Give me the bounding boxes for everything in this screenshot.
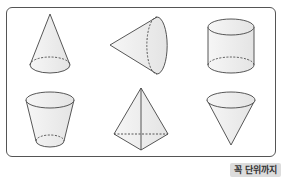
cylinder-icon	[208, 19, 254, 73]
cone-upright-icon	[30, 14, 70, 73]
cone-sideways-icon	[110, 17, 167, 74]
solid-figures	[0, 0, 285, 177]
truncated-cone-icon	[26, 92, 74, 147]
units-reminder-badge: 꼭 단위까지	[230, 163, 281, 177]
cone-inverted-icon	[207, 92, 255, 145]
pyramid-icon	[114, 88, 168, 150]
